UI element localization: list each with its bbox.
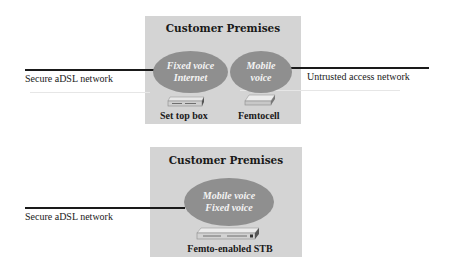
bottom-diagram: Customer Premises Secure aDSL network Mo… [0, 135, 460, 273]
femto-enabled-stb-icon [195, 227, 261, 241]
ellipse-line: voice [250, 72, 271, 84]
premises-title: Customer Premises [145, 22, 301, 34]
service-ellipse-fixed-voice-internet: Fixed voice Internet [153, 51, 228, 93]
ellipse-line: Mobile voice [203, 190, 255, 202]
ellipse-line: Mobile [247, 60, 276, 72]
ellipse-line: Internet [174, 72, 207, 84]
ellipse-line: Fixed voice [167, 60, 214, 72]
set-top-box-label: Set top box [160, 110, 208, 121]
service-ellipse-mobile-fixed-voice: Mobile voice Fixed voice [184, 178, 274, 226]
femtocell-icon [243, 94, 277, 108]
premises-title: Customer Premises [150, 154, 302, 166]
ellipse-line: Fixed voice [205, 202, 252, 214]
untrusted-access-network-label: Untrusted access network [307, 71, 410, 82]
divider-line [30, 92, 150, 93]
secure-adsl-network-label: Secure aDSL network [25, 211, 113, 222]
secure-adsl-link-line [25, 207, 185, 209]
secure-adsl-network-label: Secure aDSL network [25, 73, 113, 84]
set-top-box-icon [166, 96, 206, 108]
femto-enabled-stb-label: Femto-enabled STB [175, 243, 285, 254]
untrusted-access-link-line [291, 67, 429, 69]
secure-adsl-link-line [25, 69, 160, 71]
top-diagram: Customer Premises Secure aDSL network Un… [0, 0, 460, 135]
femtocell-label: Femtocell [238, 110, 280, 121]
service-ellipse-mobile-voice: Mobile voice [230, 51, 292, 93]
